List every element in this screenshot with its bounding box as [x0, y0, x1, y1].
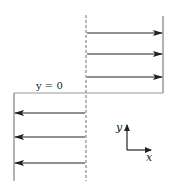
lower-arrows [15, 113, 85, 163]
upper-arrows [87, 33, 162, 77]
x-axis-label: x [146, 151, 153, 164]
shear-flow-diagram: y = 0 y x [0, 0, 176, 189]
axes-indicator: y x [115, 121, 153, 164]
boundary-label: y = 0 [35, 80, 63, 91]
y-axis-label: y [115, 121, 123, 134]
